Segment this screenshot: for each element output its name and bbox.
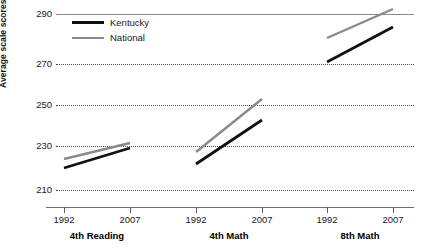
x-tick-label-g3-1992: 1992 (304, 214, 350, 225)
line-8th-math-kentucky (327, 27, 393, 62)
x-tick-mark-g3-2007 (393, 207, 394, 213)
x-tick-mark-g2-1992 (196, 207, 197, 213)
chart-container: Average scale scores 290 270 250 230 210 (0, 0, 422, 252)
legend-swatch-national-icon (72, 37, 104, 39)
x-tick-label-g2-1992: 1992 (173, 214, 219, 225)
legend-label-national: National (110, 32, 145, 44)
group-label-4th-math: 4th Math (174, 230, 284, 241)
legend-item-kentucky: Kentucky (72, 16, 149, 29)
x-axis-line (46, 207, 414, 208)
group-label-4th-reading: 4th Reading (42, 230, 152, 241)
legend: Kentucky National (72, 16, 149, 44)
x-tick-label-g1-2007: 2007 (107, 214, 153, 225)
x-tick-label-g1-1992: 1992 (41, 214, 87, 225)
legend-label-kentucky: Kentucky (110, 17, 149, 29)
x-tick-label-g2-2007: 2007 (239, 214, 285, 225)
x-tick-mark-g1-1992 (64, 207, 65, 213)
group-label-8th-math: 8th Math (305, 230, 415, 241)
legend-item-national: National (72, 31, 149, 44)
x-tick-mark-g2-2007 (262, 207, 263, 213)
x-tick-label-g3-2007: 2007 (370, 214, 416, 225)
x-tick-mark-g1-2007 (130, 207, 131, 213)
x-tick-mark-g3-1992 (327, 207, 328, 213)
legend-swatch-kentucky-icon (72, 21, 104, 24)
